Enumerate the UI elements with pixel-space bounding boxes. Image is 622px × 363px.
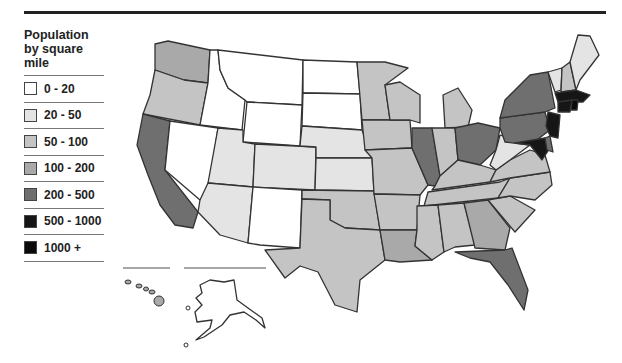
state-south-dakota [302,93,362,130]
state-maine [570,35,599,90]
state-florida [455,248,528,310]
state-iowa [362,120,412,150]
state-colorado [253,144,316,190]
alaska-island [184,343,188,347]
state-north-dakota [303,60,360,94]
us-map [0,0,622,363]
alaska-island [186,306,190,310]
state-wyoming [243,102,302,146]
state-kansas [315,158,374,191]
state-wisconsin [385,82,420,123]
state-new-york [500,72,555,118]
state-alaska [195,280,265,340]
state-arkansas [374,194,420,230]
state-new-jersey [546,112,560,138]
state-hawaii [125,280,164,306]
state-rhode-island [571,100,578,110]
state-arizona [198,183,253,243]
state-connecticut [558,100,572,112]
state-michigan [443,88,472,128]
state-new-mexico [248,187,302,248]
